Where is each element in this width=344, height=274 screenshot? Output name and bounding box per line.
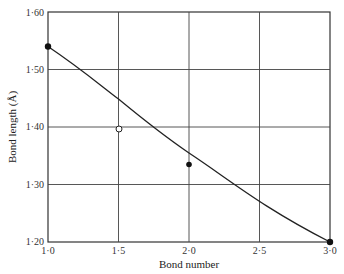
y-tick-label: 1·30 [26,179,44,190]
data-point-open [116,126,122,132]
y-tick-label: 1·40 [26,121,44,132]
x-tick-label: 2·0 [182,245,195,256]
data-point-filled [45,43,51,49]
y-tick-label: 1·50 [26,64,44,75]
x-tick-label: 1·0 [41,245,54,256]
x-tick-label: 2·5 [253,245,266,256]
bond-length-chart: 1·60 1·50 1·40 1·30 1·20 1·0 1·5 2·0 2·5… [0,0,344,274]
x-tick-label: 3·0 [323,245,336,256]
x-tick-label: 1·5 [112,245,125,256]
x-axis-label: Bond number [159,258,220,270]
data-point-filled [186,162,192,168]
y-axis-label: Bond length (Å) [6,91,19,163]
y-tick-label: 1·60 [26,7,44,18]
